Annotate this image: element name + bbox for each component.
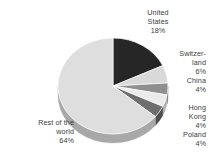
slice-label-poland: Poland 4% <box>150 130 206 148</box>
pie-chart-figure: United States 18% Switzer- land 6% China… <box>0 0 213 161</box>
slice-label-switzerland: Switzer- land 6% <box>152 49 206 76</box>
slice-label-china: China 4% <box>152 76 206 94</box>
slice-label-hong-kong: Hong Kong 4% <box>152 103 206 130</box>
slice-label-united-states: United States 18% <box>128 8 188 35</box>
slice-label-rest-of-world: Rest of the world 64% <box>6 118 74 145</box>
